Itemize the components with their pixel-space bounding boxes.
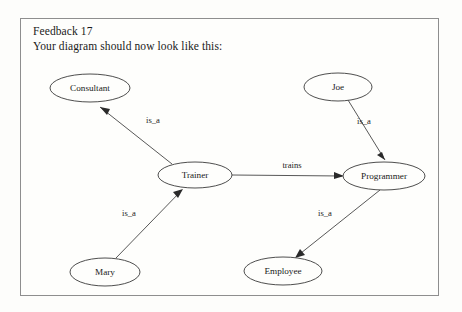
arrowhead-programmer-left — [334, 172, 344, 179]
node-label-consultant: Consultant — [70, 83, 110, 93]
node-label-programmer: Programmer — [361, 171, 407, 181]
edge-line-trainer-consultant — [100, 107, 172, 164]
edge-trainer-consultant: is_a — [100, 107, 172, 164]
edge-trainer-programmer: trains — [232, 160, 344, 179]
node-mary[interactable]: Mary — [70, 258, 140, 286]
edge-line-joe-programmer — [348, 100, 385, 160]
edge-label-programmer-employee: is_a — [318, 208, 332, 218]
arrowhead-employee — [295, 249, 305, 258]
semantic-network-diagram: is_a is_a trains is_a — [20, 18, 439, 296]
edge-joe-programmer: is_a — [348, 100, 385, 160]
edge-label-trainer-consultant: is_a — [146, 115, 160, 125]
edge-label-joe-programmer: is_a — [357, 116, 371, 126]
edge-label-trainer-programmer: trains — [282, 160, 302, 170]
node-trainer[interactable]: Trainer — [158, 162, 232, 188]
edge-programmer-employee: is_a — [295, 190, 380, 258]
figure-page: Feedback 17 Your diagram should now look… — [0, 0, 462, 312]
edge-line-trainer-programmer — [232, 175, 342, 176]
edge-label-mary-trainer: is_a — [122, 208, 136, 218]
node-consultant[interactable]: Consultant — [50, 74, 130, 102]
node-label-employee: Employee — [264, 266, 301, 276]
node-label-trainer: Trainer — [182, 170, 209, 180]
arrowhead-programmer-top — [377, 152, 385, 160]
edge-line-mary-trainer — [116, 190, 182, 258]
node-programmer[interactable]: Programmer — [343, 162, 425, 190]
node-label-joe: Joe — [332, 82, 344, 92]
node-label-mary: Mary — [95, 267, 115, 277]
diagram-canvas: is_a is_a trains is_a — [20, 18, 439, 296]
node-employee[interactable]: Employee — [244, 257, 322, 285]
arrowhead-trainer — [173, 189, 183, 198]
node-joe[interactable]: Joe — [304, 73, 372, 101]
edge-line-programmer-employee — [296, 190, 380, 257]
edge-mary-trainer: is_a — [116, 189, 183, 258]
